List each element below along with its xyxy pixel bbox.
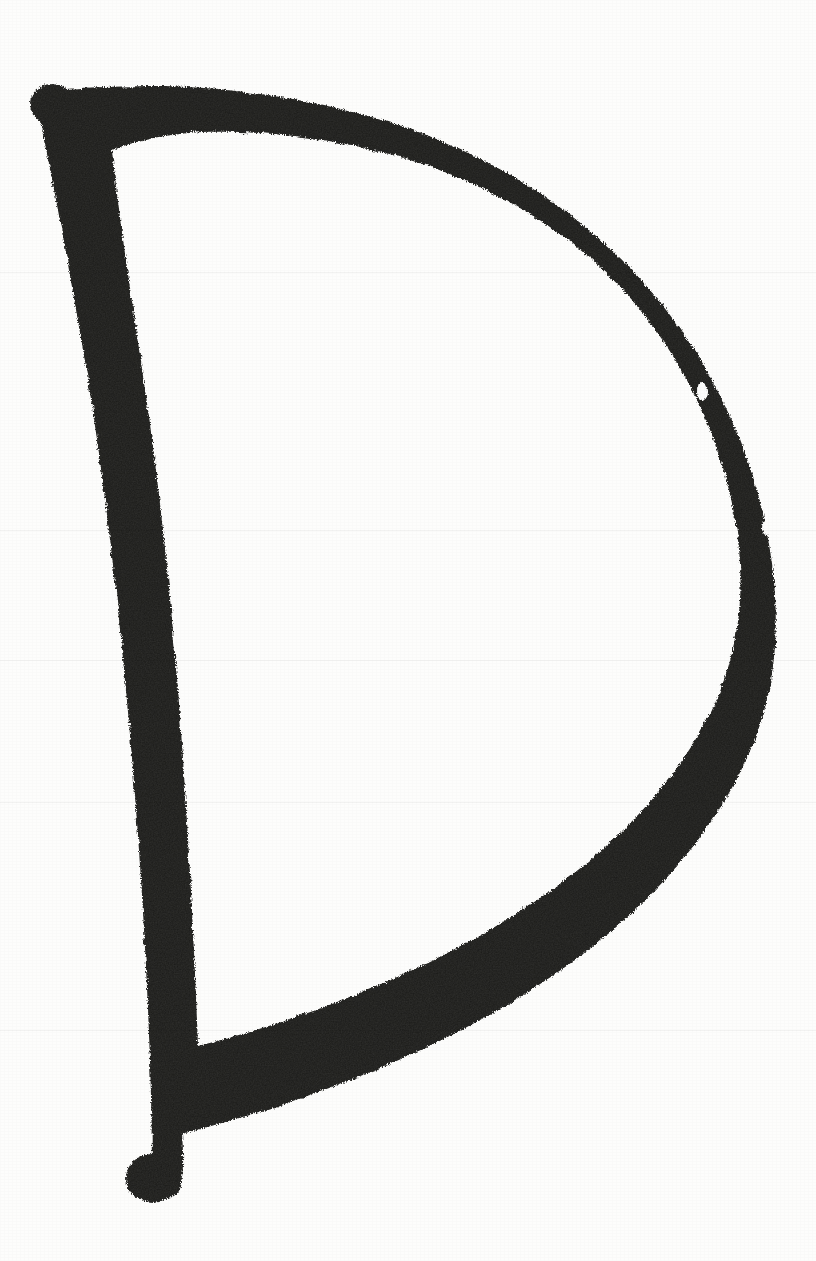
ink-mottle-layer — [0, 0, 816, 1261]
ink-stroke-group — [0, 0, 816, 1261]
scanned-page-canvas — [0, 0, 816, 1261]
handwritten-letter-d-glyph — [0, 0, 816, 1261]
